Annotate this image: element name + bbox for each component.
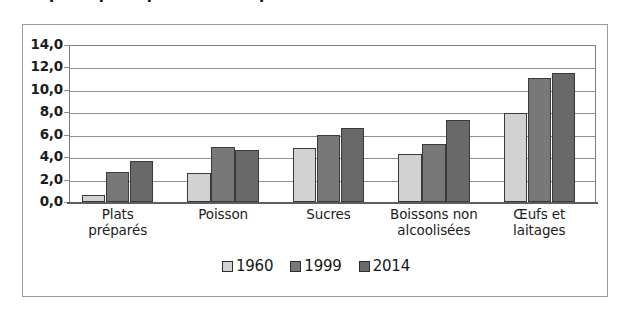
bar-1960-2 bbox=[293, 148, 317, 202]
legend-label: 1999 bbox=[304, 257, 341, 275]
legend-swatch-icon bbox=[222, 261, 233, 272]
bar-1960-1 bbox=[187, 173, 211, 202]
y-tick-label: 2,0 bbox=[23, 173, 63, 187]
category-label-line: préparés bbox=[47, 223, 188, 239]
y-tick-label: 12,0 bbox=[23, 61, 63, 75]
legend-label: 1960 bbox=[236, 257, 273, 275]
bar-1999-0 bbox=[106, 172, 130, 202]
legend-item-1960[interactable]: 1960 bbox=[222, 257, 273, 275]
bar-1999-2 bbox=[317, 135, 341, 202]
cropped-caption-above: Les principaux postes de dépenses bbox=[0, 0, 627, 12]
category-label-line: Œufs et bbox=[469, 207, 610, 223]
y-tick-label: 14,0 bbox=[23, 38, 63, 52]
bar-1999-1 bbox=[211, 147, 235, 202]
y-tick-label: 10,0 bbox=[23, 83, 63, 97]
y-tick-label: 4,0 bbox=[23, 150, 63, 164]
bar-1999-3 bbox=[422, 144, 446, 202]
bar-2014-2 bbox=[341, 128, 365, 202]
legend-swatch-icon bbox=[359, 261, 370, 272]
bar-2014-1 bbox=[235, 150, 259, 202]
y-tick-label: 6,0 bbox=[23, 128, 63, 142]
chart-figure: Les principaux postes de dépenses 14,012… bbox=[0, 0, 627, 311]
chart-frame: 14,012,010,08,06,04,02,00,0 Platspréparé… bbox=[22, 24, 608, 297]
bar-1960-0 bbox=[82, 195, 106, 202]
x-axis-category-labels: PlatspréparésPoissonSucresBoissons nonal… bbox=[69, 207, 596, 251]
bars-layer bbox=[69, 45, 596, 202]
bar-2014-3 bbox=[446, 120, 470, 202]
x-axis-line bbox=[67, 202, 598, 204]
legend-item-2014[interactable]: 2014 bbox=[359, 257, 410, 275]
legend-swatch-icon bbox=[290, 261, 301, 272]
bar-2014-4 bbox=[552, 73, 576, 202]
bar-2014-0 bbox=[130, 161, 154, 202]
legend-label: 2014 bbox=[373, 257, 410, 275]
bar-1960-4 bbox=[504, 113, 528, 202]
bar-1960-3 bbox=[398, 154, 422, 202]
cropped-caption-text: Les principaux postes de dépenses bbox=[14, 0, 320, 3]
category-label: Œufs etlaitages bbox=[469, 207, 610, 239]
legend-item-1999[interactable]: 1999 bbox=[290, 257, 341, 275]
chart-legend: 196019992014 bbox=[23, 257, 609, 275]
category-label-line: laitages bbox=[469, 223, 610, 239]
y-tick-label: 8,0 bbox=[23, 106, 63, 120]
plot-wrapper: 14,012,010,08,06,04,02,00,0 Platspréparé… bbox=[23, 25, 609, 298]
bar-1999-4 bbox=[528, 78, 552, 202]
